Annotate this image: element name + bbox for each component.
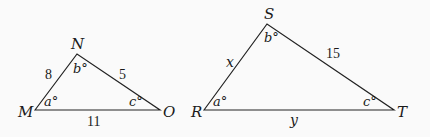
side-label-rs: x xyxy=(226,54,234,70)
angle-label-m: a° xyxy=(44,94,58,109)
vertex-label-r: R xyxy=(190,103,202,121)
angle-label-r: a° xyxy=(213,94,227,109)
similar-triangles-diagram: M N O a° b° c° 8 5 11 R S T a° b° c° x 1… xyxy=(0,0,430,137)
side-label-no: 5 xyxy=(119,67,126,82)
vertex-label-s: S xyxy=(264,5,274,23)
vertex-label-m: M xyxy=(17,103,34,121)
diagram-canvas: M N O a° b° c° 8 5 11 R S T a° b° c° x 1… xyxy=(0,0,430,137)
side-label-rt: y xyxy=(289,112,299,128)
angle-label-t: c° xyxy=(363,94,377,109)
side-label-mn: 8 xyxy=(45,67,52,82)
vertex-label-n: N xyxy=(70,35,85,53)
vertex-label-t: T xyxy=(397,103,408,121)
side-label-mo: 11 xyxy=(87,114,100,129)
side-label-st: 15 xyxy=(326,46,340,61)
angle-label-s: b° xyxy=(264,30,279,45)
vertex-label-o: O xyxy=(163,103,175,121)
angle-label-o: c° xyxy=(129,94,143,109)
angle-label-n: b° xyxy=(73,61,88,76)
